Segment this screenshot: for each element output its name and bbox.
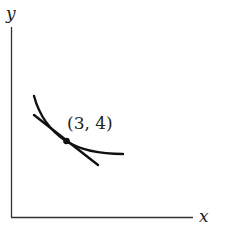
y-axis-label: y <box>5 3 16 23</box>
diagram-figure: y x (3, 4) <box>0 0 229 250</box>
point-label: (3, 4) <box>67 113 113 133</box>
tangency-point <box>63 138 70 145</box>
diagram-canvas: y x (3, 4) <box>0 0 229 250</box>
x-axis-label: x <box>199 206 209 226</box>
